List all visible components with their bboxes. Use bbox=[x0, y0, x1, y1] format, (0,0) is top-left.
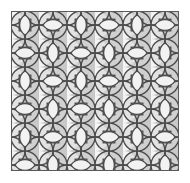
tiling-pattern-svg: Overlapping circles tiling pattern A squ… bbox=[0, 0, 190, 183]
tiling-field bbox=[11, 11, 179, 171]
tiling-lens-layer bbox=[11, 11, 179, 171]
figure-root: Overlapping circles tiling pattern A squ… bbox=[0, 0, 190, 183]
